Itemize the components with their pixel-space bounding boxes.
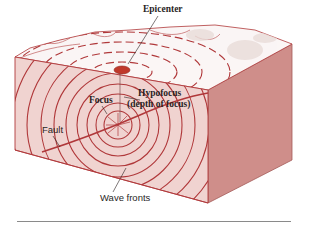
label-fault: Fault	[42, 125, 63, 135]
bottom-rule-divider	[17, 221, 291, 222]
label-hypofocus: Hypofocus	[138, 89, 181, 99]
label-focus: Focus	[89, 96, 113, 106]
epicenter-marker	[114, 66, 130, 74]
label-epicenter: Epicenter	[143, 5, 183, 15]
label-wave-fronts: Wave fronts	[100, 193, 150, 203]
earthquake-block-diagram	[0, 0, 309, 228]
label-depth-of-focus: (depth of focus)	[127, 100, 190, 110]
